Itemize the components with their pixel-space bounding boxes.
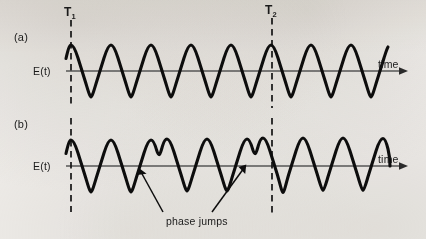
marker-label-t2-base: T: [265, 3, 273, 17]
panel-a-time-axis: [66, 67, 408, 74]
marker-label-t2: T2: [265, 4, 277, 19]
marker-label-t1-subscript: 1: [72, 12, 76, 21]
marker-label-t2-subscript: 2: [273, 10, 277, 19]
panel-label-a: (a): [14, 32, 28, 43]
phase-jumps-caption: phase jumps: [166, 216, 228, 227]
panel-b: [66, 118, 408, 214]
axis-label-time-panel-a: time: [378, 59, 399, 70]
marker-label-t1: T1: [64, 6, 76, 21]
phase-jump-arrow-2: [212, 165, 246, 212]
marker-label-t1-base: T: [64, 5, 72, 19]
panel-label-b: (b): [14, 119, 28, 130]
phase-jump-arrow-1: [137, 168, 163, 212]
panel-a: [66, 18, 408, 108]
signal-label-et-panel-b: E(t): [33, 161, 51, 172]
signal-label-et-panel-a: E(t): [33, 66, 51, 77]
axis-label-time-panel-b: time: [378, 154, 399, 165]
waveform-figure: [0, 0, 426, 239]
